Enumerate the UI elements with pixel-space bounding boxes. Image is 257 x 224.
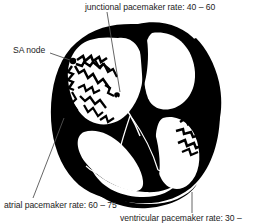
label-atrial-pacemaker-rate: atrial pacemaker rate: 60 – 75 <box>4 200 117 210</box>
leader-line-atrial <box>33 118 64 198</box>
heart-outline-group <box>51 22 221 208</box>
av-node-marker <box>114 92 120 98</box>
label-junctional-pacemaker-rate: junctional pacemaker rate: 40 – 60 <box>85 2 215 12</box>
label-sa-node: SA node <box>13 45 45 55</box>
cardiac-pacemaker-figure: junctional pacemaker rate: 40 – 60 SA no… <box>0 0 257 224</box>
sa-node-marker <box>70 58 76 64</box>
label-ventricular-pacemaker-rate: ventricular pacemaker rate: 30 – <box>120 213 242 223</box>
heart-conduction-diagram <box>0 0 257 224</box>
